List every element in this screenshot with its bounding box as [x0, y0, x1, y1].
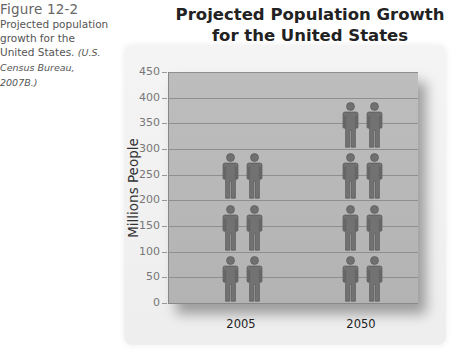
- gridline: [169, 72, 418, 73]
- person-icon: [366, 205, 383, 251]
- y-tick-mark: [162, 123, 167, 124]
- person-icon: [342, 153, 359, 199]
- y-tick-mark: [162, 98, 167, 99]
- y-tick-mark: [162, 72, 167, 73]
- person-icon: [246, 205, 263, 251]
- y-tick-mark: [162, 149, 167, 150]
- person-icon: [222, 205, 239, 251]
- x-tick-label: 2005: [216, 317, 266, 331]
- y-tick-mark: [162, 200, 167, 201]
- figure-label: Figure 12-2: [0, 2, 110, 16]
- y-tick-label: 100: [120, 245, 160, 258]
- person-icon: [366, 102, 383, 148]
- person-icon: [342, 102, 359, 148]
- y-tick-label: 300: [120, 142, 160, 155]
- y-tick-mark: [162, 277, 167, 278]
- gridline: [169, 149, 418, 150]
- y-tick-label: 0: [120, 296, 160, 309]
- y-tick-label: 400: [120, 91, 160, 104]
- person-icon: [342, 256, 359, 302]
- y-tick-mark: [162, 175, 167, 176]
- x-tick-label: 2050: [336, 317, 386, 331]
- y-tick-mark: [162, 252, 167, 253]
- y-tick-label: 450: [120, 65, 160, 78]
- person-icon: [366, 153, 383, 199]
- plot-area: [168, 72, 418, 304]
- figure-caption: Figure 12-2 Projected population growth …: [0, 2, 110, 90]
- chart-title: Projected Population Growth for the Unit…: [165, 4, 455, 46]
- gridline: [169, 200, 418, 201]
- person-icon: [342, 205, 359, 251]
- person-icon: [222, 153, 239, 199]
- y-tick-label: 50: [120, 270, 160, 283]
- person-icon: [246, 153, 263, 199]
- y-tick-label: 150: [120, 219, 160, 232]
- y-tick-mark: [162, 303, 167, 304]
- y-tick-mark: [162, 226, 167, 227]
- y-tick-label: 350: [120, 116, 160, 129]
- gridline: [169, 252, 418, 253]
- y-tick-label: 250: [120, 168, 160, 181]
- person-icon: [246, 256, 263, 302]
- y-tick-label: 200: [120, 193, 160, 206]
- person-icon: [366, 256, 383, 302]
- gridline: [169, 98, 418, 99]
- person-icon: [222, 256, 239, 302]
